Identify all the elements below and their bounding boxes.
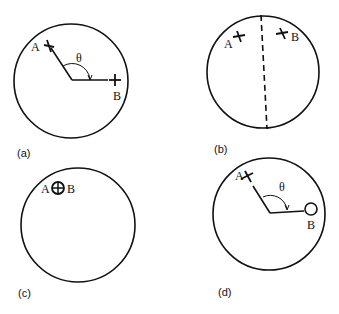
radius-a xyxy=(253,186,270,213)
diagram-canvas: A B θ (a) A B (b) A B (c) xyxy=(0,0,339,314)
panel-a: A B θ (a) xyxy=(14,24,128,159)
cross-a-icon xyxy=(233,31,245,42)
label-a: A xyxy=(235,169,244,183)
open-circle-b-icon xyxy=(305,203,317,215)
label-b: B xyxy=(291,30,299,44)
label-b: B xyxy=(67,182,75,196)
panel-b: A B (b) xyxy=(207,15,319,155)
cross-b-icon xyxy=(109,74,121,86)
label-theta: θ xyxy=(76,51,82,65)
label-b: B xyxy=(307,218,315,232)
circle-c xyxy=(21,168,135,282)
caption-d: (d) xyxy=(218,286,231,298)
label-a: A xyxy=(41,182,50,196)
caption-c: (c) xyxy=(18,287,31,299)
panel-d: A B θ (d) xyxy=(213,158,325,298)
dashed-divider xyxy=(261,15,267,129)
label-b: B xyxy=(113,89,121,103)
caption-b: (b) xyxy=(214,143,227,155)
label-a: A xyxy=(31,40,40,54)
panel-c: A B (c) xyxy=(18,168,135,299)
circled-cross-icon xyxy=(52,182,64,194)
caption-a: (a) xyxy=(17,147,30,159)
label-a: A xyxy=(224,37,233,51)
label-theta: θ xyxy=(279,180,285,194)
circle-b xyxy=(207,16,319,128)
cross-b-icon xyxy=(276,28,288,39)
